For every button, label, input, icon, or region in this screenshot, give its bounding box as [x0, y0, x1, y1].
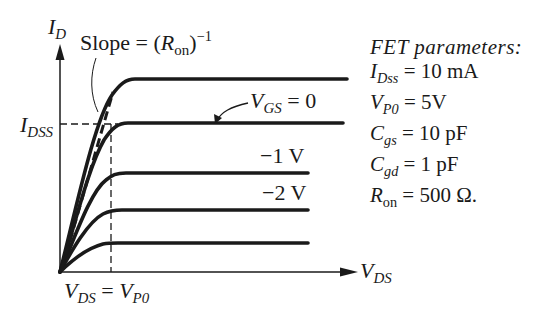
param-sub: gd — [384, 163, 398, 179]
param-idss: IDss = 10 mA — [370, 59, 522, 90]
curve-lowest — [60, 243, 308, 272]
vp0-rhs-sub: P0 — [133, 290, 150, 306]
fet-parameters-title: FET parameters: — [370, 35, 522, 59]
vp0-label: VDS = VP0 — [64, 278, 149, 307]
slope-r-sub: on — [174, 42, 189, 58]
vp0-lhs-main: V — [64, 278, 77, 303]
slope-text: Slope = ( — [80, 30, 161, 55]
slope-close: ) — [189, 30, 196, 55]
param-sub: gs — [384, 132, 397, 148]
x-axis-label-main: V — [360, 258, 373, 283]
x-axis-label-sub: DS — [373, 270, 391, 286]
vgs0-leader-line — [217, 103, 248, 120]
param-sub: P0 — [383, 101, 399, 117]
x-axis-arrow-icon — [340, 268, 358, 277]
param-value: = 5V — [404, 90, 447, 114]
y-axis-arrow-icon — [56, 44, 65, 60]
vgs0-main: V — [250, 88, 263, 113]
vgs0-label: VGS = 0 — [250, 88, 316, 117]
param-cgd: Cgd = 1 pF — [370, 152, 522, 183]
param-value: = 10 pF — [402, 121, 468, 145]
curve-vgs-minus-2 — [60, 210, 308, 272]
slope-exp: −1 — [197, 28, 212, 44]
vgs0-rest: = 0 — [282, 88, 316, 113]
param-symbol: I — [370, 59, 377, 83]
slope-r: R — [161, 30, 174, 55]
slope-label: Slope = (Ron)−1 — [80, 28, 212, 59]
slope-leader-line — [92, 58, 98, 112]
vp0-eq: = — [101, 278, 113, 303]
param-cgs: Cgs = 10 pF — [370, 121, 522, 152]
vp0-rhs-main: V — [119, 278, 132, 303]
param-symbol: C — [370, 121, 384, 145]
param-symbol: V — [370, 90, 383, 114]
idss-label: IDSS — [20, 112, 53, 141]
idss-label-sub: DSS — [27, 124, 53, 140]
param-sub: Dss — [377, 70, 398, 86]
param-ron: Ron = 500 Ω. — [370, 183, 522, 214]
param-value: = 500 Ω. — [402, 183, 477, 207]
param-value: = 1 pF — [404, 152, 459, 176]
x-axis-label: VDS — [360, 258, 392, 287]
fet-parameters: FET parameters: IDss = 10 mA VP0 = 5V Cg… — [370, 35, 522, 214]
param-value: = 10 mA — [404, 59, 479, 83]
param-symbol: R — [370, 183, 383, 207]
param-sub: on — [383, 194, 397, 210]
vgs0-sub: GS — [263, 100, 281, 116]
vgs-minus-2-label: −2 V — [262, 180, 306, 206]
vgs-minus-1-label: −1 V — [260, 143, 304, 169]
y-axis-label-sub: D — [55, 26, 66, 42]
y-axis-label: ID — [48, 14, 66, 43]
param-vp0: VP0 = 5V — [370, 90, 522, 121]
param-symbol: C — [370, 152, 384, 176]
vp0-lhs-sub: DS — [77, 290, 95, 306]
